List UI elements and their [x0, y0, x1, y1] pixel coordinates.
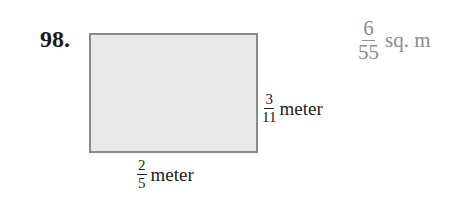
width-denominator: 5 [138, 175, 146, 191]
rectangle-figure [89, 33, 258, 153]
problem-number: 98. [40, 26, 70, 53]
width-label: 2 5 meter [137, 158, 194, 191]
width-unit: meter [151, 164, 194, 186]
height-label: 3 11 meter [262, 92, 323, 125]
answer-denominator: 55 [358, 41, 379, 63]
answer-numerator: 6 [362, 18, 375, 41]
height-denominator: 11 [262, 109, 276, 125]
width-numerator: 2 [137, 158, 147, 175]
height-fraction: 3 11 [262, 92, 276, 125]
answer: 6 55 sq. m [358, 18, 431, 63]
answer-unit: sq. m [385, 28, 431, 53]
height-numerator: 3 [264, 92, 274, 109]
answer-fraction: 6 55 [358, 18, 379, 63]
height-unit: meter [279, 98, 322, 120]
width-fraction: 2 5 [137, 158, 147, 191]
